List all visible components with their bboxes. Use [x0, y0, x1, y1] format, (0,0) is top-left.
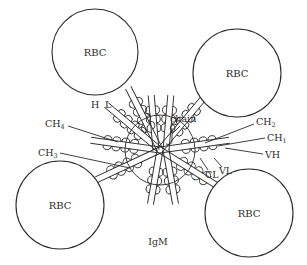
label-ch4: CH4 [45, 118, 118, 142]
rbc-label: RBC [226, 68, 249, 79]
svg-text:VH: VH [264, 149, 280, 160]
rbc-top-right: RBC [193, 29, 281, 117]
rbc-label: RBC [84, 47, 107, 58]
svg-text:CH1: CH1 [267, 132, 287, 145]
label-ch2: CH2 [205, 116, 276, 143]
label-light: L [105, 99, 112, 110]
rbc-label: RBC [49, 200, 72, 211]
svg-text:CH4: CH4 [45, 118, 65, 131]
svg-text:VL: VL [218, 165, 233, 176]
rbc-bottom-right: RBC [205, 169, 293, 257]
igm-rbc-diagram: RBC RBC RBC RBC H L chain CH4 CH3 CH2 CH… [0, 0, 307, 265]
label-heavy: H [91, 99, 99, 110]
svg-text:CL: CL [205, 169, 219, 180]
svg-text:CH2: CH2 [256, 116, 276, 129]
rbc-top-left: RBC [52, 9, 138, 95]
rbc-bottom-left: RBC [16, 161, 104, 249]
label-j-chain: chain [170, 113, 196, 124]
label-vh: VH [225, 148, 280, 160]
svg-text:CH3: CH3 [38, 147, 58, 160]
rbc-label: RBC [238, 208, 261, 219]
label-igm: IgM [148, 236, 168, 247]
